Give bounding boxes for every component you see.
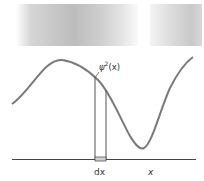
dx-strip-base — [95, 157, 106, 161]
curve-label: ψ2(x) — [99, 60, 120, 72]
x-axis-label: x — [147, 167, 154, 177]
label-leader-line — [95, 72, 99, 78]
dx-label: dx — [94, 167, 106, 177]
wavefunction-diagram: ψ2(x) dx x — [0, 0, 204, 181]
